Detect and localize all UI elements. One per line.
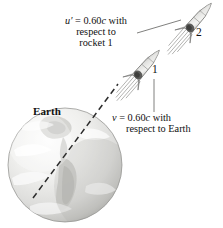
label-u-prime-line2: respect to (52, 26, 140, 37)
rocket-2-exhaust (164, 28, 192, 58)
physics-figure: u′ = 0.60c with respect to rocket 1 v = … (0, 0, 223, 228)
label-u-prime-line1: u′ = 0.60c with (65, 15, 127, 26)
label-v: v = 0.60c with respect to Earth (112, 112, 216, 134)
rocket-1 (108, 44, 166, 107)
label-earth: Earth (33, 106, 61, 118)
leader-line-u-prime (137, 20, 181, 33)
label-v-line2: respect to Earth (112, 123, 216, 134)
label-rocket-2-number: 2 (196, 26, 202, 38)
label-u-prime: u′ = 0.60c with respect to rocket 1 (52, 15, 140, 48)
rocket-1-exhaust (113, 75, 141, 105)
label-u-prime-line3: rocket 1 (52, 37, 140, 48)
label-rocket-1-number: 1 (152, 63, 158, 75)
label-v-line1: v = 0.60c with (112, 112, 171, 123)
rocket-2 (160, 0, 219, 60)
